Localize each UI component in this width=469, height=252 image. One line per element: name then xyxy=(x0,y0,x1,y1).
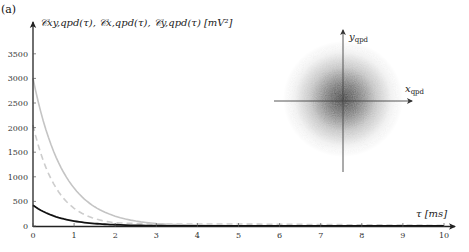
x-tick-label: 7 xyxy=(318,231,323,240)
y-tick-label: 1000 xyxy=(8,173,28,182)
y-tick-label: 3000 xyxy=(8,74,28,83)
series-line-2 xyxy=(33,205,444,226)
x-tick-label: 6 xyxy=(277,231,282,240)
y-tick-label: 1500 xyxy=(8,148,28,157)
x-tick-label: 3 xyxy=(154,231,159,240)
y-ticks: 0500100015002000250030003500 xyxy=(8,50,36,231)
x-tick-label: 10 xyxy=(439,231,449,240)
y-tick-label: 2000 xyxy=(8,124,28,133)
x-tick-label: 4 xyxy=(195,231,200,240)
y-tick-label: 3500 xyxy=(8,50,28,59)
x-tick-label: 5 xyxy=(236,231,241,240)
x-tick-label: 9 xyxy=(400,231,405,240)
inset-scatter: yqpd xqpd xyxy=(274,30,425,172)
x-axis-title: τ [ms] xyxy=(416,208,447,219)
panel-label: (a) xyxy=(1,3,16,16)
x-tick-label: 2 xyxy=(113,231,118,240)
inset-x-label: xqpd xyxy=(405,83,425,96)
y-tick-label: 2500 xyxy=(8,99,28,108)
y-tick-label: 0 xyxy=(23,222,28,231)
y-axis-title-text: 𝒞xy,qpd(τ), 𝒞x,qpd(τ), 𝒞y,qpd(τ) [mV²] xyxy=(40,17,233,28)
x-tick-label: 1 xyxy=(72,231,77,240)
y-axis-title: 𝒞xy,qpd(τ), 𝒞x,qpd(τ), 𝒞y,qpd(τ) [mV²] xyxy=(40,17,233,28)
figure: (a) 𝒞xy,qpd(τ), 𝒞x,qpd(τ), 𝒞y,qpd(τ) [mV… xyxy=(0,0,469,252)
x-tick-label: 8 xyxy=(359,231,364,240)
x-tick-label: 0 xyxy=(30,231,35,240)
y-tick-label: 500 xyxy=(13,197,28,206)
